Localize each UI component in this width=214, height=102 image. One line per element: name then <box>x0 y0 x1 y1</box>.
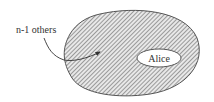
venn-diagram: Alice n-1 others <box>0 0 214 102</box>
others-label: n-1 others <box>16 24 56 35</box>
alice-label: Alice <box>148 53 170 64</box>
outer-set-region <box>64 10 199 95</box>
